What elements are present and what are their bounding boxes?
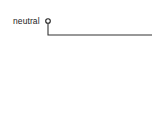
terminal-circle-icon (46, 19, 51, 24)
neutral-wire-diagram (0, 0, 152, 135)
neutral-wire (48, 23, 152, 35)
